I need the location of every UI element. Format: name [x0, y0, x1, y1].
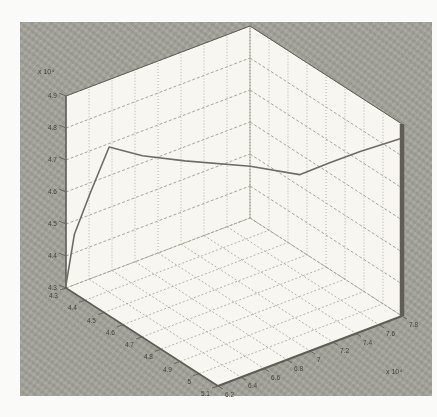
x-tick-label: 4.6	[106, 329, 115, 336]
3d-axes-plot: 4.34.44.54.64.74.84.94.34.44.54.64.74.84…	[0, 0, 437, 417]
z-tick	[59, 285, 66, 288]
x-tick	[136, 337, 142, 339]
z-tick-label: 4.7	[48, 156, 57, 163]
z-tick-label: 4.9	[48, 92, 57, 99]
y-tick-label: 6.6	[271, 374, 280, 381]
y-tick	[310, 351, 315, 354]
y-tick	[218, 386, 223, 389]
z-tick	[59, 189, 66, 192]
y-tick	[379, 325, 384, 328]
z-tick	[59, 253, 66, 256]
x-tick	[117, 325, 123, 327]
y-tick-label: 6.4	[248, 382, 257, 389]
y-tick-label: 6.2	[225, 391, 234, 398]
z-tick	[59, 157, 66, 160]
y-tick	[264, 369, 269, 372]
x-tick-label: 5	[187, 378, 191, 385]
z-tick-label: 4.8	[48, 124, 57, 131]
x-tick	[212, 386, 218, 388]
x-tick-label: 4.8	[144, 353, 153, 360]
x-tick	[79, 300, 85, 302]
z-tick-label: 4.4	[48, 252, 57, 259]
y-tick	[333, 342, 338, 345]
y-tick-label: 7.6	[386, 330, 395, 337]
y-tick	[287, 360, 292, 363]
y-tick-label: 7	[317, 356, 321, 363]
x-tick-label: 4.4	[68, 304, 77, 311]
x-tick-label: 5.1	[201, 390, 210, 397]
x-tick-label: 4.5	[87, 317, 96, 324]
x-tick	[193, 374, 199, 376]
z-tick	[59, 93, 66, 96]
z-tick	[59, 221, 66, 224]
x-tick-label: 4.7	[125, 341, 134, 348]
y-exponent-label: x 10⁴	[386, 368, 402, 375]
x-tick	[155, 349, 161, 351]
x-tick-label: 4.3	[49, 292, 58, 299]
x-tick-label: 4.9	[163, 366, 172, 373]
z-tick-label: 4.5	[48, 220, 57, 227]
y-tick	[356, 334, 361, 337]
y-tick-label: 6.8	[294, 365, 303, 372]
y-tick	[241, 377, 246, 380]
z-exponent-label: x 10⁴	[38, 68, 54, 75]
y-tick-label: 7.4	[363, 339, 372, 346]
y-tick-label: 7.8	[409, 321, 418, 328]
y-tick	[402, 316, 407, 319]
z-tick	[59, 125, 66, 128]
x-tick	[60, 288, 66, 290]
y-tick-label: 7.2	[340, 347, 349, 354]
z-tick-label: 4.6	[48, 188, 57, 195]
x-tick	[174, 362, 180, 364]
z-tick-label: 4.3	[48, 284, 57, 291]
x-tick	[98, 313, 104, 315]
